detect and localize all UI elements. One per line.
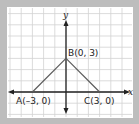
- point-c-label: C(3, 0): [84, 96, 114, 106]
- coordinate-plane: x y B(0, 3) A(–3, 0) C(3, 0): [0, 0, 139, 124]
- x-axis-label: x: [128, 87, 133, 97]
- diagram-frame: x y B(0, 3) A(–3, 0) C(3, 0): [0, 0, 139, 124]
- point-b-label: B(0, 3): [68, 48, 98, 58]
- point-a-label: A(–3, 0): [16, 96, 51, 106]
- y-axis-label: y: [62, 10, 69, 20]
